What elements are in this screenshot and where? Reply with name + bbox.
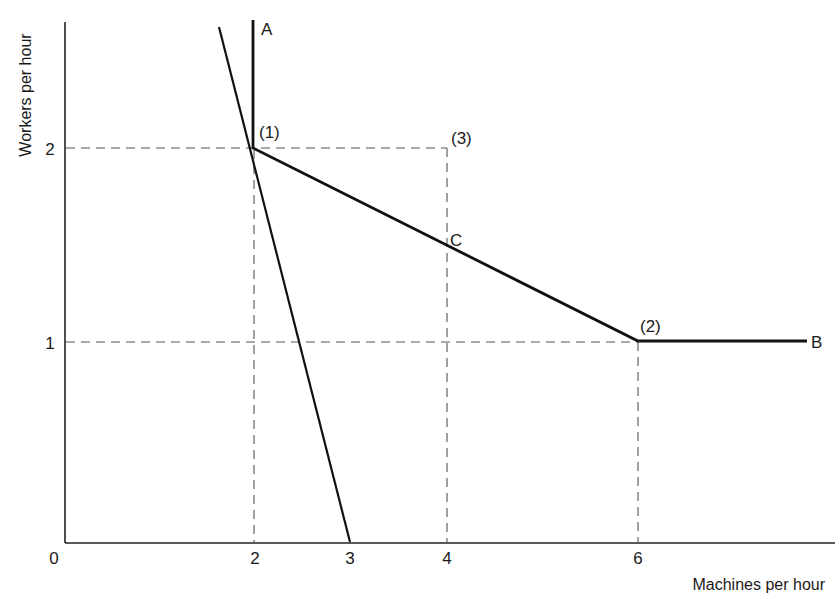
x-tick-6: 6 xyxy=(633,549,642,568)
label-point-1: (1) xyxy=(259,123,280,142)
label-point-c: C xyxy=(450,231,462,250)
x-tick-3: 3 xyxy=(345,549,354,568)
x-tick-4: 4 xyxy=(442,549,451,568)
x-axis-title: Machines per hour xyxy=(692,576,825,593)
isoquant-diagram: A (1) (3) C (2) B 2 1 0 2 3 4 6 Machines… xyxy=(0,0,840,599)
isoquant-line xyxy=(253,20,807,341)
origin-label: 0 xyxy=(49,549,58,568)
label-point-3: (3) xyxy=(451,129,472,148)
y-tick-2: 2 xyxy=(45,140,54,159)
y-tick-1: 1 xyxy=(45,334,54,353)
dashed-reference-lines xyxy=(66,148,638,542)
y-axis-title: Workers per hour xyxy=(17,33,34,157)
label-point-2: (2) xyxy=(640,317,661,336)
isocost-line xyxy=(219,27,350,542)
x-tick-2: 2 xyxy=(250,549,259,568)
label-point-a: A xyxy=(261,20,273,39)
label-point-b: B xyxy=(811,333,822,352)
